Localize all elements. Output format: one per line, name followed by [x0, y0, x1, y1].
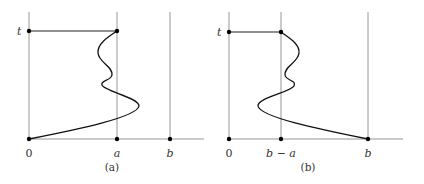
y-label-t: t	[17, 25, 22, 38]
x-label-a: a	[114, 147, 121, 160]
dot-b-minus-a	[279, 137, 283, 141]
x-label-origin: 0	[226, 147, 233, 160]
caption-b: (b)	[301, 161, 316, 173]
panel-b: t 0 b − a b (b)	[217, 12, 403, 173]
dot-b	[168, 137, 172, 141]
diagram-canvas: t 0 a b (a) t 0 b − a b (b)	[0, 0, 424, 184]
path-curve	[29, 31, 139, 139]
x-label-b: b	[166, 147, 173, 160]
dot-origin-t	[27, 29, 31, 33]
dot-b-minus-a-t	[279, 30, 283, 34]
dot-a-t	[115, 29, 119, 33]
dot-a	[115, 137, 119, 141]
path-curve	[258, 32, 368, 139]
dot-b	[366, 137, 370, 141]
dot-origin-t	[227, 30, 231, 34]
x-label-b-minus-a: b − a	[266, 147, 296, 160]
dot-origin	[227, 137, 231, 141]
x-label-origin: 0	[26, 147, 33, 160]
y-label-t: t	[217, 26, 222, 39]
dot-origin	[27, 137, 31, 141]
x-label-b: b	[364, 147, 371, 160]
panel-a: t 0 a b (a)	[17, 12, 204, 173]
caption-a: (a)	[105, 161, 119, 173]
